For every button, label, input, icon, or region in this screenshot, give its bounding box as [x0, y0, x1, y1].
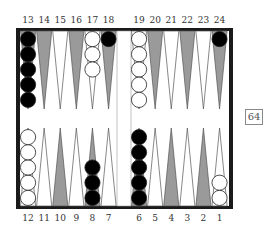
black-checker-point-8[interactable] — [85, 160, 100, 175]
black-checker-point-18[interactable] — [101, 31, 116, 46]
white-checker-point-1[interactable] — [212, 175, 227, 190]
black-checker-point-6[interactable] — [131, 130, 146, 145]
black-checker-point-8[interactable] — [85, 175, 100, 190]
bar[interactable] — [117, 31, 131, 206]
black-checker-point-13[interactable] — [20, 31, 35, 46]
black-checker-point-8[interactable] — [85, 190, 100, 205]
white-checker-point-19[interactable] — [131, 31, 146, 46]
white-checker-point-12[interactable] — [20, 190, 35, 205]
white-checker-point-17[interactable] — [85, 62, 100, 77]
white-checker-point-12[interactable] — [20, 145, 35, 160]
black-checker-point-13[interactable] — [20, 77, 35, 92]
black-checker-point-13[interactable] — [20, 92, 35, 107]
backgammon-board[interactable] — [0, 0, 279, 231]
black-checker-point-13[interactable] — [20, 62, 35, 77]
white-checker-point-19[interactable] — [131, 77, 146, 92]
black-checker-point-6[interactable] — [131, 145, 146, 160]
white-checker-point-17[interactable] — [85, 31, 100, 46]
black-checker-point-6[interactable] — [131, 160, 146, 175]
white-checker-point-12[interactable] — [20, 160, 35, 175]
white-checker-point-19[interactable] — [131, 47, 146, 62]
black-checker-point-6[interactable] — [131, 175, 146, 190]
white-checker-point-1[interactable] — [212, 190, 227, 205]
black-checker-point-24[interactable] — [212, 31, 227, 46]
black-checker-point-13[interactable] — [20, 47, 35, 62]
white-checker-point-19[interactable] — [131, 62, 146, 77]
doubling-cube[interactable]: 64 — [245, 109, 263, 125]
white-checker-point-12[interactable] — [20, 175, 35, 190]
white-checker-point-19[interactable] — [131, 92, 146, 107]
white-checker-point-12[interactable] — [20, 130, 35, 145]
white-checker-point-17[interactable] — [85, 47, 100, 62]
black-checker-point-6[interactable] — [131, 190, 146, 205]
